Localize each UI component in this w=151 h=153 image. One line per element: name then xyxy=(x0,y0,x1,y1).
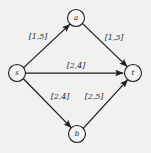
edge-label-b-t: [2,5] xyxy=(85,92,104,101)
edge-label-a-t: [1,3] xyxy=(105,33,124,42)
edge-a-t xyxy=(83,24,128,67)
node-t-label: t xyxy=(132,69,135,77)
node-a-label: a xyxy=(74,14,78,22)
edge-label-s-t: [2,4] xyxy=(67,61,86,70)
edge-b-t xyxy=(84,80,128,128)
nodes-group: s a b t xyxy=(9,10,142,143)
node-s-label: s xyxy=(15,69,19,77)
edge-label-s-b: [2,4] xyxy=(51,92,70,101)
diagram-canvas: s a b t [1,5] [1,3] [2,4] [2,4] [2,5] xyxy=(0,0,151,153)
edge-labels-group: [1,5] [1,3] [2,4] [2,4] [2,5] xyxy=(29,32,124,101)
edge-s-b xyxy=(23,79,71,128)
node-b-label: b xyxy=(75,130,80,138)
flow-network-diagram: s a b t [1,5] [1,3] [2,4] [2,4] [2,5] xyxy=(0,0,151,153)
edge-label-s-a: [1,5] xyxy=(29,32,48,41)
